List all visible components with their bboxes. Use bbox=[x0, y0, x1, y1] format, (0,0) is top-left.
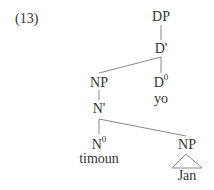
word-yo: yo bbox=[154, 92, 168, 106]
word-timoun: timoun bbox=[79, 152, 119, 166]
example-number: (13) bbox=[15, 12, 38, 26]
node-n0: N0 bbox=[92, 138, 107, 152]
node-d0-label: D bbox=[154, 75, 164, 90]
node-n0-label: N bbox=[92, 137, 102, 152]
node-d0-sup: 0 bbox=[164, 72, 169, 82]
node-dp: DP bbox=[152, 10, 170, 24]
node-d0: D0 bbox=[154, 76, 169, 90]
node-d-bar: D' bbox=[155, 42, 168, 56]
triangle-icon bbox=[172, 154, 202, 168]
node-np-comp: NP bbox=[178, 138, 196, 152]
node-n-bar: N' bbox=[93, 102, 106, 116]
word-jan: Jan bbox=[178, 169, 197, 183]
edge-dbar-np bbox=[99, 57, 161, 73]
node-n0-sup: 0 bbox=[102, 134, 107, 144]
edge-nbar-np bbox=[99, 119, 186, 136]
node-np-spec: NP bbox=[90, 76, 108, 90]
